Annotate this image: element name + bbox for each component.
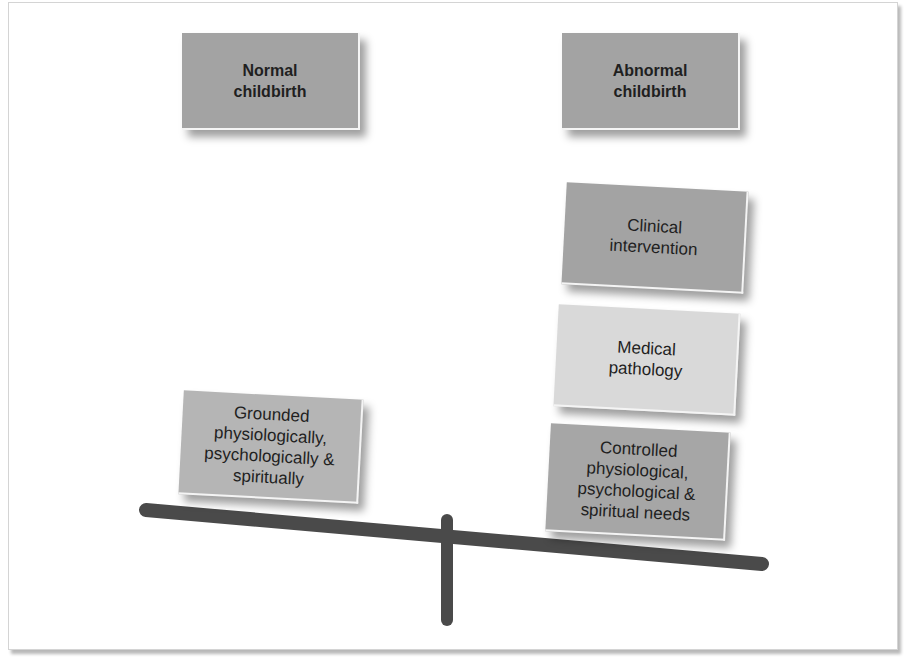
normal-childbirth-heading: Normal childbirth — [182, 33, 360, 130]
grounded-label: Grounded physiologically, psychologicall… — [203, 401, 338, 492]
abnormal-childbirth-label: Abnormal childbirth — [613, 60, 688, 102]
abnormal-childbirth-heading: Abnormal childbirth — [562, 33, 740, 130]
controlled-needs-label: Controlled physiological, psychological … — [576, 436, 698, 526]
medical-pathology-label: Medical pathology — [608, 336, 684, 382]
normal-childbirth-label: Normal childbirth — [234, 60, 307, 102]
balance-scale — [0, 0, 906, 657]
medical-pathology-box: Medical pathology — [553, 304, 740, 415]
clinical-intervention-box: Clinical intervention — [561, 182, 748, 293]
clinical-intervention-label: Clinical intervention — [609, 214, 699, 261]
grounded-box: Grounded physiologically, psychologicall… — [178, 390, 363, 503]
controlled-needs-box: Controlled physiological, psychological … — [545, 423, 730, 540]
